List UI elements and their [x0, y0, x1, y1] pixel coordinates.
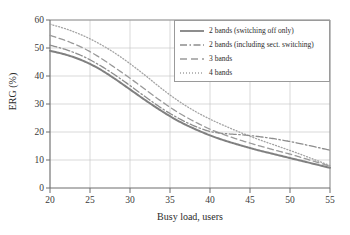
x-axis-label: Busy load, users	[50, 211, 330, 222]
x-tick-20: 20	[38, 195, 62, 205]
y-tick-10: 10	[22, 155, 44, 165]
legend-item-2-bands-switching-off[interactable]: 2 bands (switching off only)	[179, 24, 329, 38]
y-tick-30: 30	[22, 99, 44, 109]
legend-item-4-bands[interactable]: 4 bands	[179, 66, 329, 80]
x-tick-35: 35	[158, 195, 182, 205]
legend-swatch-dotted-icon	[179, 68, 205, 78]
x-tick-50: 50	[278, 195, 302, 205]
y-tick-50: 50	[22, 43, 44, 53]
y-tick-60: 60	[22, 15, 44, 25]
legend-item-2-bands-sect-switching[interactable]: 2 bands (including sect. switching)	[179, 38, 329, 52]
y-axis-label: ERG (%)	[7, 62, 18, 122]
x-tick-45: 45	[238, 195, 262, 205]
chart-legend: 2 bands (switching off only) 2 bands (in…	[174, 20, 330, 82]
x-tick-40: 40	[198, 195, 222, 205]
legend-swatch-solid-icon	[179, 26, 205, 36]
x-tick-30: 30	[118, 195, 142, 205]
legend-label-3-bands: 3 bands	[209, 55, 232, 63]
legend-item-3-bands[interactable]: 3 bands	[179, 52, 329, 66]
x-tick-25: 25	[78, 195, 102, 205]
y-tick-0: 0	[22, 183, 44, 193]
y-tick-40: 40	[22, 71, 44, 81]
legend-swatch-dashed-icon	[179, 54, 205, 64]
legend-label-2-bands-switching-off: 2 bands (switching off only)	[209, 27, 294, 35]
legend-swatch-dash-dot-icon	[179, 40, 205, 50]
legend-label-4-bands: 4 bands	[209, 69, 232, 77]
y-tick-20: 20	[22, 127, 44, 137]
x-tick-55: 55	[318, 195, 342, 205]
erg-vs-busy-load-chart: 60 50 40 30 20 10 0 20 25 30 35 40 45 50…	[0, 0, 350, 235]
legend-label-2-bands-sect-switching: 2 bands (including sect. switching)	[209, 41, 314, 49]
